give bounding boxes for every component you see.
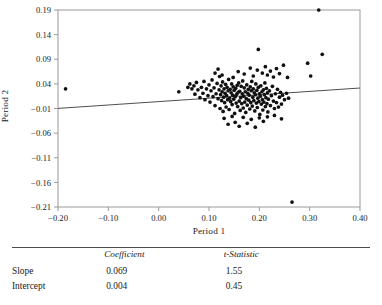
column-header-blank [12,245,102,266]
scatter-point [218,107,222,111]
scatter-point [241,106,245,110]
scatter-point [236,70,240,74]
scatter-point [212,86,216,90]
x-axis-tick-label: 0.40 [352,213,367,223]
scatter-point [278,72,282,76]
scatter-point [198,96,202,100]
regression-figure: 0.190.140.090.04−0.01−0.06−0.11−0.16−0.2… [0,0,382,305]
scatter-point [213,71,217,75]
y-axis-tick-label: −0.21 [31,202,51,212]
scatter-point [245,103,249,107]
table-header-row: Coefficient t-Statistic [12,245,370,266]
scatter-point [228,87,232,91]
scatter-point [192,84,196,88]
slope-t-statistic-value: 1.55 [222,266,333,281]
scatter-point [225,85,229,89]
scatter-point [223,101,227,105]
scatter-point [317,8,321,12]
scatter-point [258,94,262,98]
scatter-point [177,90,181,94]
scatter-point [215,82,219,86]
y-axis-tick-label: −0.16 [31,178,52,188]
scatter-point [265,86,269,90]
scatter-point [253,109,257,113]
intercept-t-statistic-value: 0.45 [222,281,333,296]
scatter-point [188,82,192,86]
scatter-point [267,97,271,101]
scatter-point [209,89,213,93]
scatter-point [273,114,277,118]
scatter-point [250,104,254,108]
scatter-point [268,89,272,93]
scatter-point [265,102,269,106]
scatter-point [249,101,253,105]
scatter-point [266,115,270,119]
scatter-point [275,67,279,71]
scatter-point [233,120,237,124]
plot-canvas: 0.190.140.090.04−0.01−0.06−0.11−0.16−0.2… [0,0,382,243]
row-label-slope: Slope [12,266,102,281]
scatter-point [262,119,266,123]
y-axis-tick-label: 0.09 [36,54,51,64]
y-axis-tick-label: −0.11 [31,153,51,163]
scatter-point [272,75,276,79]
scatter-point [274,92,278,96]
scatter-point [241,79,245,83]
column-header-pad [333,245,370,266]
slope-coefficient-value: 0.069 [102,266,222,281]
scatter-point [276,87,280,91]
x-axis-tick-label: 0.00 [151,213,166,223]
scatter-point [280,102,284,106]
scatter-point [283,98,287,102]
scatter-point [250,80,254,84]
scatter-point [219,84,223,88]
scatter-point [285,91,289,95]
scatter-point [230,103,234,107]
y-axis-tick-label: 0.14 [36,30,52,40]
scatter-point [261,71,265,75]
y-axis-tick-label: −0.06 [31,128,52,138]
scatter-point [230,115,234,119]
scatter-point [227,108,231,112]
x-axis-tick-label: 0.20 [252,213,267,223]
scatter-point [281,93,285,97]
scatter-point [269,104,273,108]
scatter-points [64,8,324,204]
scatter-point [195,81,199,85]
scatter-point [277,105,281,109]
row-label-intercept: Intercept [12,281,102,296]
scatter-point [306,61,310,65]
scatter-point [286,76,290,80]
scatter-point [269,69,273,73]
row-pad [333,281,370,296]
scatter-point [222,117,226,121]
plot-frame [58,10,360,207]
scatter-point [227,78,231,82]
scatter-point [248,66,252,70]
scatter-point [259,84,263,88]
scatter-point [221,80,225,84]
scatter-point [196,88,200,92]
scatter-point [213,104,217,108]
scatter-point [248,85,252,89]
x-axis-tick-label: 0.10 [201,213,216,223]
scatter-point [287,96,291,100]
scatter-point [211,95,215,99]
table-row: Intercept 0.004 0.45 [12,281,370,296]
column-header-t-statistic: t-Statistic [222,245,333,266]
scatter-point [225,94,229,98]
scatter-plot-chart: 0.190.140.090.04−0.01−0.06−0.11−0.16−0.2… [0,0,382,243]
x-axis-tick-label: 0.30 [302,213,317,223]
scatter-point [231,76,235,80]
scatter-point [226,122,230,126]
scatter-point [220,99,224,103]
scatter-point [205,87,209,91]
y-axis-tick-label: −0.01 [31,104,51,114]
scatter-point [238,109,242,113]
scatter-point [216,67,220,71]
y-axis-label: Period 2 [0,90,10,130]
scatter-point [237,81,241,85]
scatter-point [242,72,246,76]
scatter-point [278,95,282,99]
scatter-point [193,92,197,96]
